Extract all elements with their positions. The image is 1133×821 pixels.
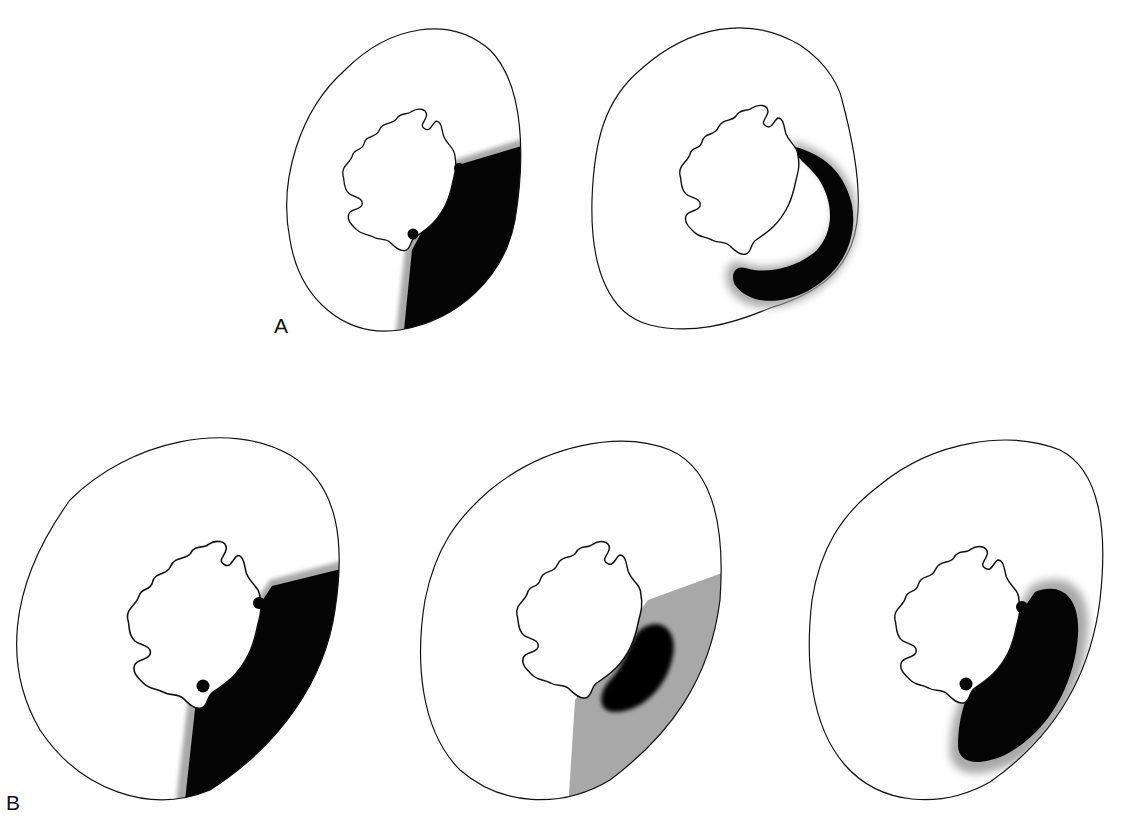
section-b3 xyxy=(809,440,1103,799)
section-b2 xyxy=(421,441,730,810)
panel-label-b: B xyxy=(6,791,20,814)
section-a2 xyxy=(592,28,858,329)
figure: A B xyxy=(0,0,1133,821)
panel-label-a: A xyxy=(274,314,288,337)
section-b1 xyxy=(17,438,345,810)
section-a1 xyxy=(287,29,525,340)
